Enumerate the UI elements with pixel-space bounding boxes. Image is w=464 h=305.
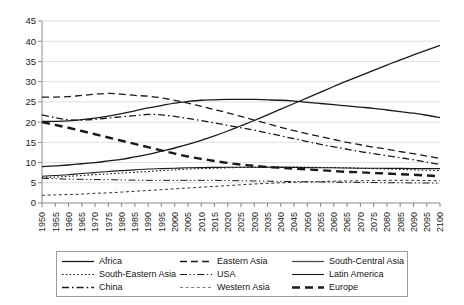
x-tick-label: 2030 bbox=[250, 212, 260, 232]
legend-item-china[interactable]: China bbox=[61, 281, 179, 294]
x-tick-label: 2015 bbox=[210, 212, 220, 232]
chart-plot-region: 0510152025303540451950195519601965197019… bbox=[0, 0, 464, 245]
x-tick-label: 1985 bbox=[130, 212, 140, 232]
legend-label-africa: Africa bbox=[99, 257, 122, 266]
x-tick-label: 1990 bbox=[143, 212, 153, 232]
line-chart-svg: 0510152025303540451950195519601965197019… bbox=[0, 0, 464, 245]
legend-line-swatch-south-eastern-asia bbox=[61, 270, 95, 279]
x-tick-label: 2060 bbox=[329, 212, 339, 232]
x-tick-label: 1975 bbox=[104, 212, 114, 232]
x-tick-label: 2010 bbox=[197, 212, 207, 232]
legend-line-swatch-africa bbox=[61, 257, 95, 266]
legend-item-latin-america[interactable]: Latin America bbox=[291, 268, 409, 281]
x-tick-label: 2095 bbox=[422, 212, 432, 232]
legend-label-south-eastern-asia: South-Eastern Asia bbox=[99, 270, 176, 279]
legend-grid: AfricaEastern AsiaSouth-Central AsiaSout… bbox=[61, 255, 403, 294]
x-tick-label: 1970 bbox=[90, 212, 100, 232]
legend-line-swatch-europe bbox=[291, 283, 325, 292]
series-line-latin-america bbox=[42, 167, 440, 176]
legend-line-swatch-south-central-asia bbox=[291, 257, 325, 266]
legend-item-south-eastern-asia[interactable]: South-Eastern Asia bbox=[61, 268, 179, 281]
y-tick-label: 40 bbox=[25, 36, 36, 47]
legend-item-western-asia[interactable]: Western Asia bbox=[179, 281, 291, 294]
x-tick-label: 1955 bbox=[51, 212, 61, 232]
legend-line-swatch-western-asia bbox=[179, 283, 213, 292]
y-tick-label: 30 bbox=[25, 76, 36, 87]
x-tick-label: 2000 bbox=[170, 212, 180, 232]
x-tick-label: 2065 bbox=[342, 212, 352, 232]
legend-label-latin-america: Latin America bbox=[329, 270, 384, 279]
x-tick-label: 2025 bbox=[236, 212, 246, 232]
x-tick-label: 1995 bbox=[157, 212, 167, 232]
x-tick-label: 2035 bbox=[263, 212, 273, 232]
x-tick-label: 2040 bbox=[276, 212, 286, 232]
x-tick-label: 2020 bbox=[223, 212, 233, 232]
legend-line-swatch-eastern-asia bbox=[179, 257, 213, 266]
y-tick-label: 45 bbox=[25, 15, 36, 26]
x-tick-label: 1960 bbox=[64, 212, 74, 232]
y-tick-label: 5 bbox=[31, 177, 36, 188]
x-tick-label: 2100 bbox=[435, 212, 445, 232]
x-tick-label: 2045 bbox=[289, 212, 299, 232]
legend-label-europe: Europe bbox=[329, 283, 358, 292]
x-tick-label: 1965 bbox=[77, 212, 87, 232]
legend-label-western-asia: Western Asia bbox=[217, 283, 270, 292]
x-tick-label: 2090 bbox=[409, 212, 419, 232]
x-tick-label: 2075 bbox=[369, 212, 379, 232]
x-tick-label: 2005 bbox=[183, 212, 193, 232]
legend-item-south-central-asia[interactable]: South-Central Asia bbox=[291, 255, 409, 268]
y-tick-label: 10 bbox=[25, 157, 36, 168]
legend-line-swatch-latin-america bbox=[291, 270, 325, 279]
x-tick-label: 1950 bbox=[37, 212, 47, 232]
x-tick-label: 2085 bbox=[396, 212, 406, 232]
legend-item-usa[interactable]: USA bbox=[179, 268, 291, 281]
legend-item-eastern-asia[interactable]: Eastern Asia bbox=[179, 255, 291, 268]
legend-label-south-central-asia: South-Central Asia bbox=[329, 257, 404, 266]
chart-legend: AfricaEastern AsiaSouth-Central AsiaSout… bbox=[56, 251, 408, 297]
y-tick-label: 20 bbox=[25, 117, 36, 128]
x-tick-label: 2050 bbox=[303, 212, 313, 232]
legend-label-usa: USA bbox=[217, 270, 236, 279]
x-tick-label: 2055 bbox=[316, 212, 326, 232]
chart-screenshot: 0510152025303540451950195519601965197019… bbox=[0, 0, 464, 305]
legend-item-europe[interactable]: Europe bbox=[291, 281, 409, 294]
y-tick-label: 35 bbox=[25, 56, 36, 67]
x-tick-label: 2080 bbox=[382, 212, 392, 232]
y-tick-label: 15 bbox=[25, 137, 36, 148]
y-tick-label: 0 bbox=[31, 197, 36, 208]
legend-item-africa[interactable]: Africa bbox=[61, 255, 179, 268]
legend-line-swatch-china bbox=[61, 283, 95, 292]
x-tick-label: 1980 bbox=[117, 212, 127, 232]
legend-label-china: China bbox=[99, 283, 123, 292]
x-tick-label: 2070 bbox=[356, 212, 366, 232]
legend-label-eastern-asia: Eastern Asia bbox=[217, 257, 268, 266]
y-tick-label: 25 bbox=[25, 96, 36, 107]
legend-line-swatch-usa bbox=[179, 270, 213, 279]
